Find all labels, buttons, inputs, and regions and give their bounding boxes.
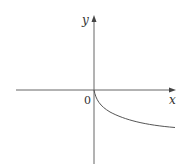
y-axis-arrow-icon — [92, 15, 97, 22]
chart: y x 0 — [0, 0, 187, 168]
x-axis-arrow-icon — [169, 88, 176, 93]
curve — [94, 90, 175, 128]
x-axis-label: x — [169, 93, 176, 107]
origin-label: 0 — [84, 94, 91, 107]
y-axis-label: y — [81, 13, 89, 27]
